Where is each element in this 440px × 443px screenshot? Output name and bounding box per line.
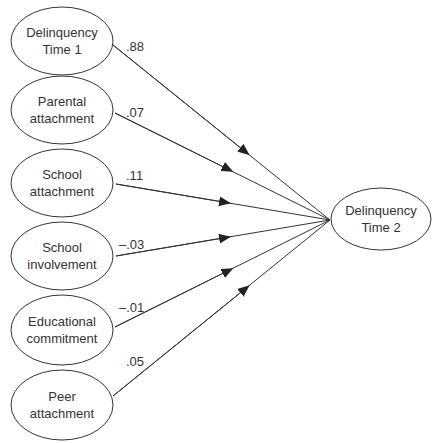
node-label-line2: Time 2 [361,220,400,235]
node-label-line2: attachment [30,111,95,126]
node-label-line2: involvement [27,257,97,272]
path-edges [113,45,330,396]
edge-parental-attachment [115,113,330,220]
predictor-node-school-involvement: School involvement [11,222,113,290]
coefficient-label: –.01 [119,300,144,315]
edge-school-attachment [116,184,330,220]
node-label-line1: Delinquency [26,25,98,40]
coefficient-label: .11 [126,168,143,183]
node-label-line2: commitment [27,331,98,346]
node-label-line2: Time 1 [42,42,81,57]
node-label-line1: School [42,167,82,182]
node-label-line1: School [42,240,82,255]
node-label-line1: Delinquency [345,203,417,218]
node-label-line2: attachment [30,184,95,199]
predictor-node-school-attachment: School attachment [11,149,113,217]
coefficient-label: .05 [126,354,144,369]
path-diagram: Delinquency Time 1 Parental attachment S… [0,0,440,443]
node-label-line1: Peer [48,389,76,404]
node-label-line1: Parental [38,94,87,109]
coefficient-label: –.03 [119,237,144,252]
edge-peer-attachment [113,220,330,396]
predictor-node-educational-commitment: Educational commitment [11,295,113,365]
node-label-line1: Educational [28,314,96,329]
predictor-node-peer-attachment: Peer attachment [11,370,113,440]
predictor-node-parental-attachment: Parental attachment [11,76,113,144]
predictor-node-delinquency-time1: Delinquency Time 1 [11,7,113,75]
outcome-node-delinquency-time2: Delinquency Time 2 [331,188,431,250]
coefficient-label: .07 [126,105,144,120]
coefficient-label: .88 [126,39,144,54]
edge-delinquency-time1 [113,45,330,220]
edge-school-involvement [116,220,330,256]
edge-educational-commitment [115,220,330,327]
node-label-line2: attachment [30,406,95,421]
